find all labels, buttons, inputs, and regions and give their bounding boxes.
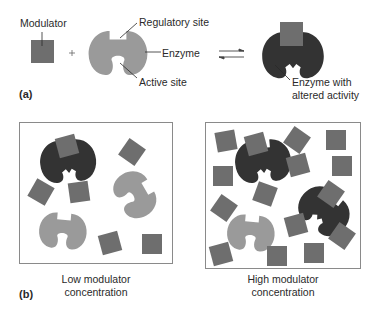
- high-caption: High modulator concentration: [203, 273, 363, 299]
- low-caption: Low modulator concentration: [16, 273, 176, 299]
- high-caption-line2: concentration: [203, 286, 363, 299]
- high-caption-line1: High modulator: [203, 273, 363, 286]
- active-site-label: Active site: [139, 76, 187, 88]
- altered-label-line2: altered activity: [292, 89, 359, 101]
- equilibrium-arrows: [219, 49, 244, 59]
- regulatory-site-label: Regulatory site: [139, 16, 209, 28]
- low-caption-line2: concentration: [16, 286, 176, 299]
- part-a-label: (a): [19, 88, 32, 100]
- modulator-bound: [280, 22, 303, 46]
- modulator-square: [31, 32, 54, 63]
- modulator-label: Modulator: [20, 17, 67, 29]
- altered-label-line1: Enzyme with: [292, 76, 352, 88]
- enzyme-label: Enzyme: [162, 47, 200, 59]
- enzyme-free: [89, 31, 148, 75]
- low-caption-line1: Low modulator: [16, 273, 176, 286]
- plus-sign: [69, 50, 75, 56]
